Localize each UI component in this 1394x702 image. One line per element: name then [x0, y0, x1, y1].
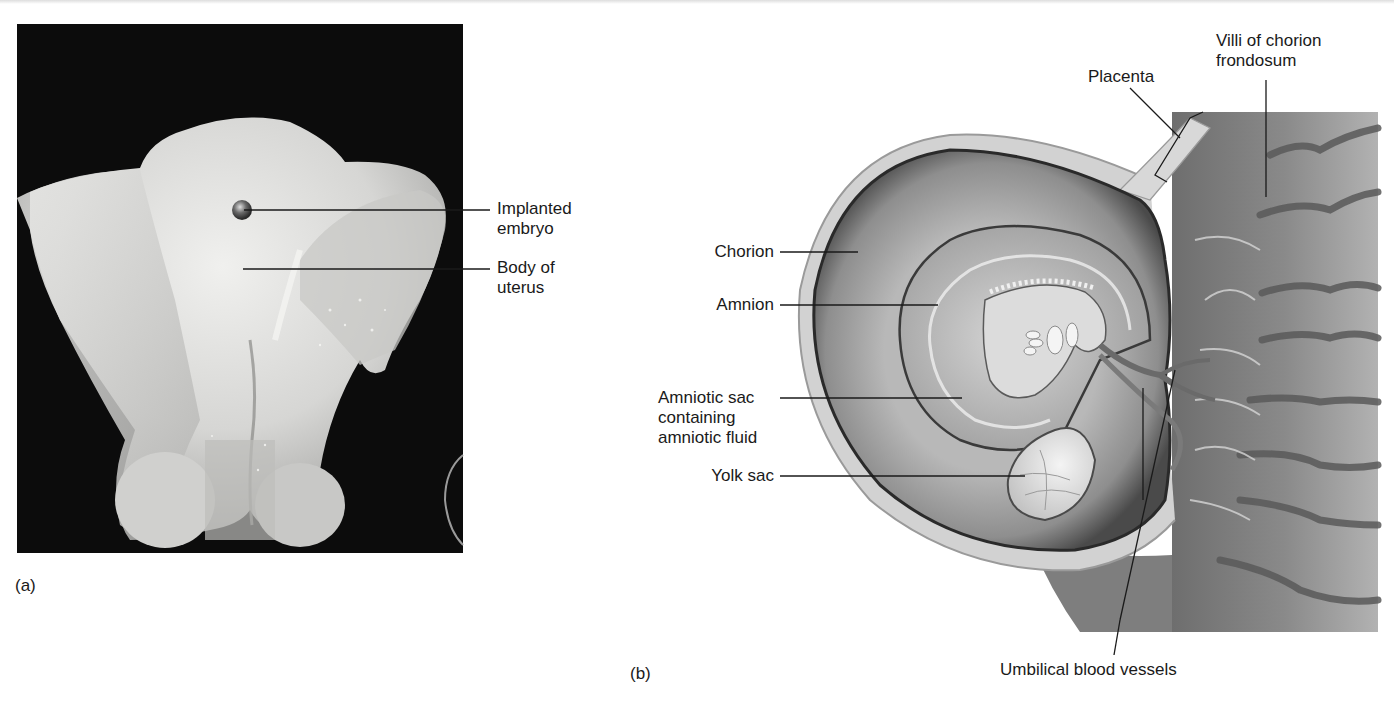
- label-implanted-embryo: Implanted embryo: [497, 199, 572, 239]
- label-villi-of-chorion-frondosum: Villi of chorion frondosum: [1216, 31, 1322, 71]
- label-line: embryo: [497, 219, 572, 239]
- label-placenta: Placenta: [1088, 67, 1154, 87]
- panel-tag-b: (b): [630, 664, 651, 684]
- label-amnion: Amnion: [690, 295, 774, 315]
- label-yolk-sac: Yolk sac: [670, 466, 774, 486]
- label-line: amniotic fluid: [658, 428, 757, 448]
- label-amniotic-sac: Amniotic sac containing amniotic fluid: [658, 388, 757, 448]
- panel-tag-a: (a): [15, 576, 36, 596]
- label-body-of-uterus: Body of uterus: [497, 258, 555, 298]
- label-line: Villi of chorion: [1216, 31, 1322, 51]
- label-line: Amniotic sac: [658, 388, 757, 408]
- uterus-photo: [17, 24, 463, 553]
- label-chorion: Chorion: [690, 242, 774, 262]
- label-umbilical-blood-vessels: Umbilical blood vessels: [1000, 660, 1177, 680]
- label-line: Implanted: [497, 199, 572, 219]
- label-line: containing: [658, 408, 757, 428]
- label-line: Body of: [497, 258, 555, 278]
- figure-artwork: [0, 0, 1394, 702]
- label-line: uterus: [497, 278, 555, 298]
- label-line: frondosum: [1216, 51, 1322, 71]
- embryo-illustration: [799, 112, 1378, 632]
